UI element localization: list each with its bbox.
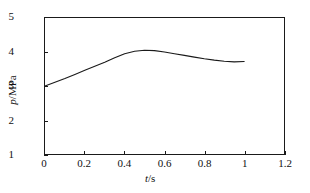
plot-frame bbox=[44, 17, 285, 155]
x-tick-label: 1.2 bbox=[265, 158, 305, 169]
y-axis-symbol: p bbox=[6, 99, 18, 105]
curve-series-pressure bbox=[45, 18, 284, 154]
y-tick-mark bbox=[44, 121, 48, 122]
y-tick-mark bbox=[44, 155, 48, 156]
x-tick-label: 1 bbox=[225, 158, 265, 169]
x-axis-title: t/s bbox=[145, 172, 155, 184]
y-tick-mark bbox=[44, 17, 48, 18]
x-tick-mark bbox=[165, 151, 166, 155]
plot-area bbox=[45, 18, 284, 154]
y-tick-label: 2 bbox=[0, 115, 14, 126]
x-tick-mark bbox=[84, 151, 85, 155]
x-tick-mark bbox=[205, 151, 206, 155]
x-tick-mark bbox=[285, 151, 286, 155]
x-axis-unit: /s bbox=[148, 172, 155, 184]
x-tick-label: 0 bbox=[24, 158, 64, 169]
y-tick-label: 5 bbox=[0, 11, 14, 22]
x-tick-mark bbox=[124, 151, 125, 155]
x-tick-label: 0.4 bbox=[104, 158, 144, 169]
y-axis-title: p/MPa bbox=[0, 83, 42, 97]
chart-figure: 12345 00.20.40.60.811.2 p/MPa t/s bbox=[0, 0, 310, 193]
x-tick-label: 0.2 bbox=[64, 158, 104, 169]
y-tick-label: 4 bbox=[0, 46, 14, 57]
y-tick-mark bbox=[44, 86, 48, 87]
y-tick-mark bbox=[44, 52, 48, 53]
y-tick-label: 1 bbox=[0, 149, 14, 160]
x-tick-mark bbox=[245, 151, 246, 155]
x-tick-label: 0.8 bbox=[185, 158, 225, 169]
x-tick-label: 0.6 bbox=[145, 158, 185, 169]
y-axis-unit: /MPa bbox=[6, 75, 18, 99]
